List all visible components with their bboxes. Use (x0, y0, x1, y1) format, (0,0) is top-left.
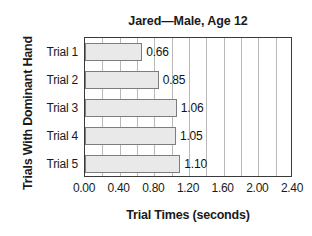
bar-chart-figure: Jared—Male, Age 12 Trials With Dominant … (0, 0, 312, 236)
x-tick-label: 2.40 (272, 181, 312, 195)
x-axis-tick-labels: 0.000.400.801.201.602.002.40 (0, 0, 312, 236)
x-axis-title: Trial Times (seconds) (84, 208, 292, 222)
